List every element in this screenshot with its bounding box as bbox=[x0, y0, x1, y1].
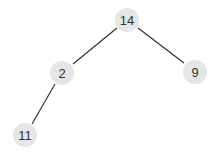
tree-diagram: 14 2 9 11 bbox=[0, 0, 218, 153]
tree-node-11: 11 bbox=[13, 123, 37, 147]
node-label: 14 bbox=[120, 13, 134, 28]
tree-node-9: 9 bbox=[183, 60, 207, 84]
node-label: 11 bbox=[18, 128, 32, 143]
node-label: 2 bbox=[58, 66, 65, 81]
edge-14-2 bbox=[73, 28, 117, 64]
edge-2-11 bbox=[32, 84, 55, 124]
edge-14-9 bbox=[138, 28, 184, 63]
node-label: 9 bbox=[191, 65, 198, 80]
tree-node-2: 2 bbox=[50, 61, 74, 85]
tree-node-14: 14 bbox=[115, 8, 139, 32]
